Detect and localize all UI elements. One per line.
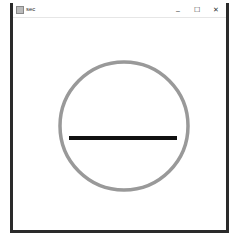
title-bar[interactable]: sec – ☐ ✕ [13, 3, 226, 18]
drawing-surface [13, 17, 226, 230]
minimize-button[interactable]: – [168, 3, 188, 17]
app-window: sec – ☐ ✕ [10, 3, 229, 233]
window-title: sec [26, 5, 35, 14]
drawing-canvas[interactable] [13, 17, 226, 230]
maximize-button[interactable]: ☐ [187, 3, 207, 17]
circle-shape [60, 62, 188, 190]
app-icon [16, 6, 24, 14]
close-button[interactable]: ✕ [206, 3, 226, 17]
